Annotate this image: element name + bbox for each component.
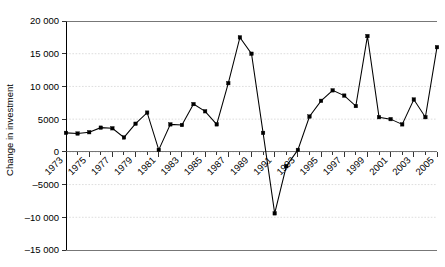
data-point-marker bbox=[389, 117, 393, 121]
data-point-marker bbox=[122, 136, 126, 140]
data-point-marker bbox=[169, 123, 173, 127]
data-point-marker bbox=[64, 131, 68, 135]
y-tick-label: 10 000 bbox=[30, 81, 59, 92]
y-tick-label: 15 000 bbox=[30, 48, 59, 59]
data-point-marker bbox=[215, 123, 219, 127]
y-tick-label: –5000 bbox=[33, 179, 59, 190]
data-point-marker bbox=[412, 98, 416, 102]
line-chart: 20 00015 00010 00050000–5000–10 000–15 0… bbox=[0, 0, 445, 267]
y-tick-label: –15 000 bbox=[25, 244, 59, 255]
data-point-marker bbox=[331, 89, 335, 93]
data-point-marker bbox=[238, 36, 242, 40]
y-tick-label: –10 000 bbox=[25, 212, 59, 223]
data-point-marker bbox=[157, 148, 161, 152]
data-point-marker bbox=[99, 126, 103, 129]
data-point-marker bbox=[134, 122, 138, 126]
data-point-marker bbox=[261, 131, 265, 135]
chart-container: 20 00015 00010 00050000–5000–10 000–15 0… bbox=[0, 0, 445, 267]
data-point-marker bbox=[343, 94, 347, 98]
data-point-marker bbox=[192, 102, 196, 106]
data-point-marker bbox=[273, 212, 277, 216]
data-point-marker bbox=[87, 130, 91, 134]
data-point-marker bbox=[296, 148, 300, 152]
data-point-marker bbox=[203, 110, 207, 114]
data-point-marker bbox=[180, 123, 184, 127]
data-point-marker bbox=[227, 81, 231, 85]
data-point-marker bbox=[250, 52, 254, 56]
data-point-marker bbox=[435, 45, 439, 49]
y-axis-title: Change in investment bbox=[4, 84, 15, 176]
data-point-marker bbox=[145, 111, 149, 115]
data-point-marker bbox=[354, 104, 358, 108]
data-point-marker bbox=[424, 115, 428, 119]
data-point-marker bbox=[76, 132, 80, 136]
data-point-marker bbox=[308, 115, 312, 119]
data-point-marker bbox=[285, 165, 289, 169]
data-point-marker bbox=[366, 34, 370, 38]
data-point-marker bbox=[319, 99, 323, 103]
data-point-marker bbox=[400, 123, 404, 127]
y-tick-label: 20 000 bbox=[30, 15, 59, 26]
y-tick-label: 5000 bbox=[38, 114, 59, 125]
data-point-marker bbox=[111, 127, 115, 131]
data-point-marker bbox=[377, 115, 381, 119]
